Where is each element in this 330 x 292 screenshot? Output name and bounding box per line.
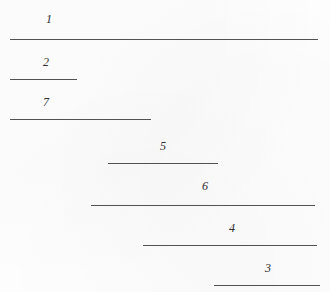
rule-line-4: [143, 245, 317, 246]
rule-label-6: 6: [202, 180, 208, 192]
rule-label-4: 4: [229, 222, 235, 234]
rule-line-1: [10, 39, 318, 40]
rule-label-2: 2: [43, 56, 49, 68]
figure-canvas: 1 2 7 5 6 4 3: [0, 0, 330, 292]
rule-line-7: [10, 119, 151, 120]
rule-line-5: [108, 163, 218, 164]
rule-line-6: [91, 205, 315, 206]
rule-line-3: [214, 285, 320, 286]
rule-label-7: 7: [43, 96, 49, 108]
rule-label-3: 3: [265, 262, 271, 274]
rule-label-5: 5: [160, 140, 166, 152]
rule-label-1: 1: [46, 13, 52, 25]
rule-line-2: [10, 79, 77, 80]
